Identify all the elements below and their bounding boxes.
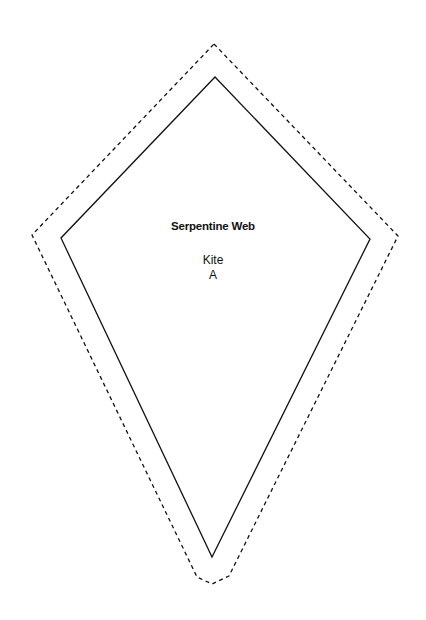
sew-line-solid-outline xyxy=(61,77,370,557)
cut-line-dashed-outline xyxy=(32,44,398,584)
piece-label: A xyxy=(0,268,426,282)
shape-name-label: Kite xyxy=(0,253,426,267)
kite-template-drawing xyxy=(0,0,426,620)
template-title: Serpentine Web xyxy=(0,220,426,232)
